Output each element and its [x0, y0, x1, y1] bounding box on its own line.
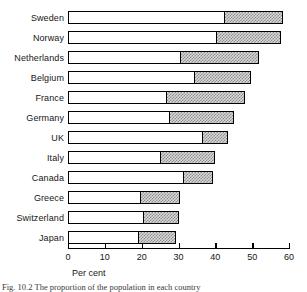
- bar-wrap-belgium: [68, 71, 251, 84]
- bar-segment-b-netherlands: [180, 52, 258, 63]
- x-tick-30: [179, 243, 180, 249]
- x-tick-label-10: 10: [100, 252, 110, 262]
- bar-segment-b-belgium: [194, 72, 250, 83]
- chart-row-greece: Greece: [0, 188, 307, 208]
- bar-wrap-france: [68, 91, 245, 104]
- bar-segment-a-canada: [69, 172, 183, 183]
- bar-wrap-italy: [68, 151, 215, 164]
- category-label-switzerland: Switzerland: [0, 213, 64, 223]
- stacked-bar-france: [68, 91, 245, 104]
- bar-segment-a-switzerland: [69, 212, 143, 223]
- chart-row-uk: UK: [0, 128, 307, 148]
- chart-row-france: France: [0, 88, 307, 108]
- bar-wrap-greece: [68, 191, 180, 204]
- stacked-bar-greece: [68, 191, 180, 204]
- stacked-bar-canada: [68, 171, 213, 184]
- stacked-bar-switzerland: [68, 211, 179, 224]
- bar-segment-b-italy: [160, 152, 215, 163]
- bar-segment-a-italy: [69, 152, 160, 163]
- x-tick-label-30: 30: [173, 252, 183, 262]
- bar-wrap-japan: [68, 231, 176, 244]
- chart-row-netherlands: Netherlands: [0, 48, 307, 68]
- bar-wrap-sweden: [68, 11, 283, 24]
- x-tick-40: [215, 243, 216, 249]
- bar-wrap-uk: [68, 131, 228, 144]
- bar-wrap-germany: [68, 111, 234, 124]
- bar-wrap-canada: [68, 171, 213, 184]
- bar-wrap-switzerland: [68, 211, 179, 224]
- bar-segment-a-france: [69, 92, 166, 103]
- bar-segment-b-canada: [183, 172, 212, 183]
- x-tick-label-60: 60: [284, 252, 294, 262]
- chart-row-italy: Italy: [0, 148, 307, 168]
- bar-segment-b-japan: [138, 232, 174, 243]
- category-label-norway: Norway: [0, 33, 64, 43]
- chart-row-sweden: Sweden: [0, 8, 307, 28]
- category-label-canada: Canada: [0, 173, 64, 183]
- bar-segment-b-france: [166, 92, 244, 103]
- stacked-bar-sweden: [68, 11, 283, 24]
- x-tick-0: [68, 243, 69, 249]
- x-tick-label-40: 40: [210, 252, 220, 262]
- bar-wrap-netherlands: [68, 51, 259, 64]
- chart-row-belgium: Belgium: [0, 68, 307, 88]
- chart-row-switzerland: Switzerland: [0, 208, 307, 228]
- chart-row-norway: Norway: [0, 28, 307, 48]
- x-axis: [68, 248, 290, 249]
- bar-segment-b-norway: [216, 32, 279, 43]
- chart-rows: Sweden Norway Netherla: [0, 8, 307, 248]
- bar-segment-b-greece: [140, 192, 179, 203]
- stacked-bar-italy: [68, 151, 215, 164]
- x-tick-label-50: 50: [247, 252, 257, 262]
- chart-row-japan: Japan: [0, 228, 307, 248]
- x-tick-20: [142, 243, 143, 249]
- stacked-bar-japan: [68, 231, 176, 244]
- bar-wrap-norway: [68, 31, 281, 44]
- chart-row-germany: Germany: [0, 108, 307, 128]
- chart-row-canada: Canada: [0, 168, 307, 188]
- category-label-italy: Italy: [0, 153, 64, 163]
- x-tick-10: [105, 243, 106, 249]
- bar-segment-b-sweden: [224, 12, 282, 23]
- category-label-belgium: Belgium: [0, 73, 64, 83]
- x-tick-label-0: 0: [65, 252, 70, 262]
- category-label-sweden: Sweden: [0, 13, 64, 23]
- bar-segment-a-netherlands: [69, 52, 180, 63]
- category-label-japan: Japan: [0, 233, 64, 243]
- bar-segment-a-germany: [69, 112, 169, 123]
- category-label-greece: Greece: [0, 193, 64, 203]
- stacked-bar-netherlands: [68, 51, 259, 64]
- bar-segment-a-japan: [69, 232, 138, 243]
- x-tick-50: [252, 243, 253, 249]
- bar-segment-b-germany: [169, 112, 233, 123]
- figure-caption: Fig. 10.2 The proportion of the populati…: [2, 283, 307, 292]
- x-tick-label-20: 20: [137, 252, 147, 262]
- stacked-bar-germany: [68, 111, 234, 124]
- category-label-france: France: [0, 93, 64, 103]
- bar-segment-a-greece: [69, 192, 140, 203]
- x-tick-60: [289, 243, 290, 249]
- bar-segment-b-uk: [202, 132, 227, 143]
- bar-segment-b-switzerland: [143, 212, 177, 223]
- bar-segment-a-norway: [69, 32, 216, 43]
- bar-segment-a-uk: [69, 132, 202, 143]
- category-label-germany: Germany: [0, 113, 64, 123]
- category-label-netherlands: Netherlands: [0, 53, 64, 63]
- category-label-uk: UK: [0, 133, 64, 143]
- bar-segment-a-belgium: [69, 72, 194, 83]
- bar-segment-a-sweden: [69, 12, 224, 23]
- x-axis-title: Per cent: [72, 268, 106, 278]
- stacked-bar-uk: [68, 131, 228, 144]
- stacked-bar-norway: [68, 31, 281, 44]
- stacked-bar-belgium: [68, 71, 251, 84]
